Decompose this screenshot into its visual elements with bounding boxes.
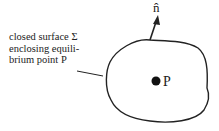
equilibrium-point-dot (152, 77, 161, 86)
normal-vector-label: n̂ (153, 0, 160, 16)
normal-arrow-shaft (150, 22, 156, 40)
leader-line (77, 71, 103, 76)
surface-diagram (0, 0, 219, 131)
point-label: P (163, 74, 171, 90)
normal-arrow-head (153, 15, 160, 25)
